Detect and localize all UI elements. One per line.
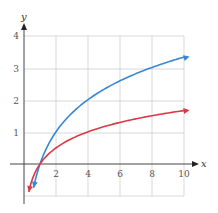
red-curve-arrow-icon	[183, 108, 189, 114]
y-axis-label: y	[20, 11, 27, 22]
x-tick-label: 10	[178, 169, 190, 179]
log-curves-chart: x y 2 4 6 8 10 1 2 3 4	[0, 0, 218, 213]
axes	[10, 28, 194, 204]
x-axis-arrow-icon	[192, 161, 199, 167]
x-axis-label: x	[201, 158, 207, 169]
x-tick-label: 6	[117, 169, 123, 179]
y-axis-arrow-icon	[21, 23, 27, 30]
red-curve	[29, 110, 186, 192]
x-tick-label: 4	[85, 169, 91, 179]
red-curve-arrow-icon	[27, 185, 33, 192]
y-tick-label: 1	[13, 128, 19, 138]
x-tick-label: 2	[53, 169, 59, 179]
x-tick-label: 8	[149, 169, 155, 179]
y-tick-label: 3	[13, 64, 19, 74]
y-tick-label: 2	[13, 96, 19, 106]
y-tick-label: 4	[13, 31, 19, 41]
grid	[24, 36, 184, 196]
